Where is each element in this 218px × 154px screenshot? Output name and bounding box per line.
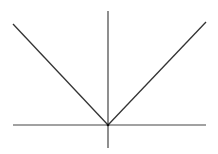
right-branch [108,22,206,125]
left-branch [13,24,108,125]
origin-point [107,124,110,127]
axes [13,11,206,148]
abs-curve [13,22,206,125]
function-plot [0,0,218,154]
